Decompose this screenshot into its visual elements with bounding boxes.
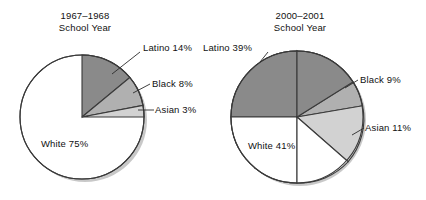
left-leader-line-latino	[112, 52, 140, 74]
pie-chart-figure: 1967–1968School Year 2000–2001School Yea…	[0, 0, 426, 200]
right-label-latino: Latino 39%	[203, 42, 252, 53]
chart-title-left-subtitle: School Year	[59, 22, 111, 33]
right-pie-slice-latino	[231, 51, 297, 117]
right-label-asian: Asian 11%	[365, 122, 411, 133]
left-label-asian: Asian 3%	[155, 104, 196, 115]
left-label-black: Black 8%	[152, 78, 193, 89]
chart-title-right: 2000–2001School Year	[243, 10, 357, 33]
chart-title-right-year: 2000–2001	[276, 10, 325, 21]
right-label-white: White 41%	[248, 140, 295, 151]
right-label-black: Black 9%	[360, 74, 401, 85]
left-label-latino: Latino 14%	[143, 42, 192, 53]
chart-title-left: 1967–1968School Year	[28, 10, 142, 33]
chart-title-left-year: 1967–1968	[61, 10, 110, 21]
chart-title-right-subtitle: School Year	[274, 22, 326, 33]
left-label-white: White 75%	[41, 138, 88, 149]
